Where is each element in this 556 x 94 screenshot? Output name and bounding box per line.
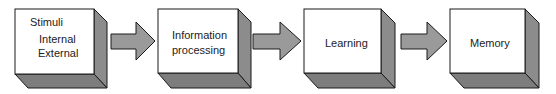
box-bottom-face — [15, 74, 107, 88]
box-bottom-face — [304, 73, 395, 88]
stimuli-external-label: External — [38, 47, 78, 60]
box-bottom-face — [158, 73, 251, 88]
arrow-information-to-learning — [253, 22, 301, 60]
box-bottom-face — [450, 73, 539, 88]
arrow-learning-to-memory — [401, 22, 447, 60]
stimuli-internal-label: Internal — [39, 33, 76, 46]
processing-label: processing — [172, 44, 225, 57]
memory-label: Memory — [470, 37, 510, 50]
information-label: Information — [172, 29, 227, 42]
stimuli-title: Stimuli — [30, 16, 63, 29]
learning-label: Learning — [325, 37, 368, 50]
arrow-stimuli-to-information — [111, 22, 155, 60]
